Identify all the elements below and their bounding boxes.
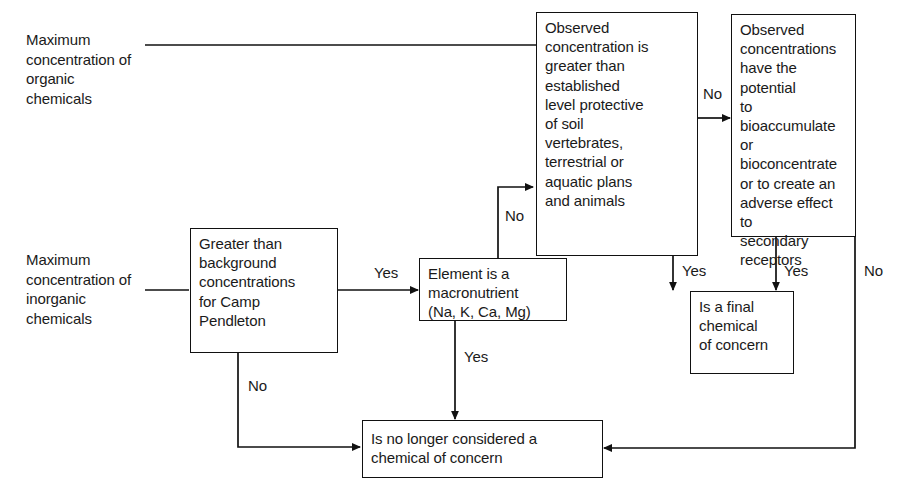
node-background-check[interactable]: Greater than background concentrations f…: [190, 228, 338, 353]
edge-label-background-no: No: [248, 377, 267, 394]
node-macronutrient-check[interactable]: Element is a macronutrient (Na, K, Ca, M…: [419, 258, 567, 321]
edge-label-macronutrient-yes: Yes: [464, 348, 488, 365]
edge-label-bioaccumulate-no: No: [864, 262, 883, 279]
node-no-longer-considered[interactable]: Is no longer considered a chemical of co…: [362, 420, 603, 478]
edge-label-background-yes: Yes: [374, 264, 398, 281]
wire-background-no: [238, 353, 360, 447]
edge-label-observed-yes: Yes: [682, 262, 706, 279]
flowchart-canvas: Maximum concentration of organic chemica…: [0, 0, 923, 497]
edge-label-observed-no: No: [703, 85, 722, 102]
node-bioaccumulate-check[interactable]: Observed concentrations have the potenti…: [731, 14, 856, 237]
node-final-chemical-of-concern[interactable]: Is a final chemical of concern: [690, 291, 794, 374]
node-observed-concentration-check[interactable]: Observed concentration is greater than e…: [536, 12, 698, 256]
edge-label-bioaccumulate-yes: Yes: [784, 262, 808, 279]
organic-input-label: Maximum concentration of organic chemica…: [26, 30, 156, 108]
edge-label-macronutrient-no: No: [505, 207, 524, 224]
inorganic-input-label: Maximum concentration of inorganic chemi…: [26, 250, 166, 328]
